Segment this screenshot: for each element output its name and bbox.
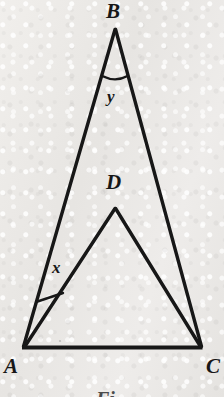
vertex-label-D: D: [106, 172, 121, 193]
geometry-figure: B D A C y x Fi: [0, 0, 224, 397]
angle-label-x: x: [52, 259, 61, 276]
segment-BC: [116, 30, 202, 347]
vertex-label-C: C: [206, 356, 220, 377]
vertex-label-B: B: [106, 1, 120, 22]
paper-speck: [59, 340, 61, 342]
angle-bar-x-icon: [38, 293, 64, 302]
figure-canvas: [0, 0, 224, 397]
segment-AB: [24, 30, 116, 347]
vertex-label-A: A: [4, 356, 18, 377]
segment-DC: [116, 209, 201, 347]
angle-label-y: y: [107, 88, 115, 105]
angle-arc-y-icon: [104, 76, 128, 79]
caption-fragment: Fi: [96, 389, 126, 397]
segment-AD: [25, 209, 116, 348]
